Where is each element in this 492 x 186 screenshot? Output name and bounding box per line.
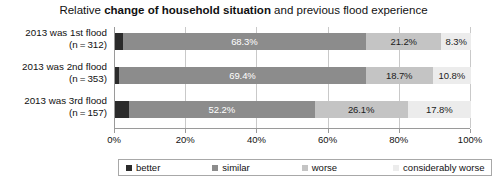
category-label: 2013 was 1st flood(n = 312): [0, 27, 107, 50]
x-tick-label: 80%: [389, 134, 408, 145]
legend-swatch-icon: [126, 165, 132, 171]
x-tick-mark: [399, 129, 400, 133]
bar-segment-similar: 68.3%: [123, 33, 366, 50]
bar-segment-value: 10.8%: [439, 71, 465, 81]
bar-segment-worse: 21.2%: [366, 33, 441, 50]
legend-item-similar[interactable]: similar: [212, 162, 249, 173]
bar-row: 69.4%18.7%10.8%: [115, 67, 470, 84]
y-axis-category-labels: 2013 was 1st flood(n = 312)2013 was 2nd …: [0, 27, 114, 129]
legend-label: better: [136, 162, 160, 173]
x-tick-label: 20%: [176, 134, 195, 145]
plot-area: 68.3%21.2%8.3%69.4%18.7%10.8%52.2%26.1%1…: [114, 27, 470, 129]
x-tick-label: 40%: [247, 134, 266, 145]
legend-label: worse: [312, 162, 337, 173]
category-label: 2013 was 3rd flood(n = 157): [0, 95, 107, 118]
x-tick-mark: [185, 129, 186, 133]
category-label-count: (n = 312): [0, 39, 107, 51]
bar-row: 52.2%26.1%17.8%: [115, 101, 470, 118]
bar-segment-better: [115, 101, 129, 118]
legend-item-better[interactable]: better: [126, 162, 160, 173]
bar-segment-value: 21.2%: [390, 37, 416, 47]
legend-label: similar: [222, 162, 249, 173]
legend-swatch-icon: [302, 165, 308, 171]
bar-segment-value: 69.4%: [229, 71, 255, 81]
bar-segment-worse: 26.1%: [315, 101, 408, 118]
category-label-count: (n = 157): [0, 107, 107, 119]
x-tick-mark: [328, 129, 329, 133]
bar-segment-better: [115, 33, 123, 50]
chart-title: Relative change of household situation a…: [0, 3, 487, 17]
bar-segment-considerably-worse: 10.8%: [433, 67, 471, 84]
bar-segment-value: 52.2%: [209, 105, 235, 115]
x-tick-label: 0%: [107, 134, 121, 145]
bar-segment-considerably-worse: 8.3%: [441, 33, 471, 50]
x-tick-mark: [470, 129, 471, 133]
legend-label: considerably worse: [403, 162, 484, 173]
category-label-line1: 2013 was 1st flood: [0, 27, 107, 39]
x-tick-label: 100%: [458, 134, 482, 145]
category-label-count: (n = 353): [0, 73, 107, 85]
chart-title-bold: change of household situation: [104, 4, 271, 16]
bar-segment-value: 17.8%: [426, 105, 452, 115]
bar-segment-worse: 18.7%: [366, 67, 433, 84]
category-label-line1: 2013 was 3rd flood: [0, 95, 107, 107]
legend-item-considerably-worse[interactable]: considerably worse: [393, 162, 484, 173]
chart-title-plain-1: Relative: [59, 4, 104, 16]
bar-segment-value: 8.3%: [446, 37, 467, 47]
legend-swatch-icon: [212, 165, 218, 171]
bar-row: 68.3%21.2%8.3%: [115, 33, 470, 50]
bar-segment-value: 18.7%: [386, 71, 412, 81]
bar-segment-similar: 69.4%: [119, 67, 366, 84]
category-label-line1: 2013 was 2nd flood: [0, 61, 107, 73]
legend-item-worse[interactable]: worse: [302, 162, 337, 173]
bar-segment-similar: 52.2%: [129, 101, 315, 118]
chart-legend: bettersimilarworseconsiderably worse: [118, 159, 492, 176]
bar-segment-value: 26.1%: [348, 105, 374, 115]
x-tick-mark: [114, 129, 115, 133]
bar-segment-value: 68.3%: [231, 37, 257, 47]
legend-swatch-icon: [393, 165, 399, 171]
x-tick-mark: [256, 129, 257, 133]
chart-title-plain-2: and previous flood experience: [271, 4, 428, 16]
x-tick-label: 60%: [318, 134, 337, 145]
category-label: 2013 was 2nd flood(n = 353): [0, 61, 107, 84]
bar-segment-considerably-worse: 17.8%: [408, 101, 471, 118]
